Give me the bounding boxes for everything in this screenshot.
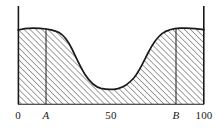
tick-label-A: A — [43, 110, 50, 121]
tick-label-50: 50 — [105, 110, 116, 121]
tick-label-B: B — [173, 110, 180, 121]
figure-root: 0 A 50 B 100 — [0, 0, 221, 131]
tick-label-0: 0 — [15, 110, 21, 121]
tick-label-100: 100 — [195, 110, 212, 121]
